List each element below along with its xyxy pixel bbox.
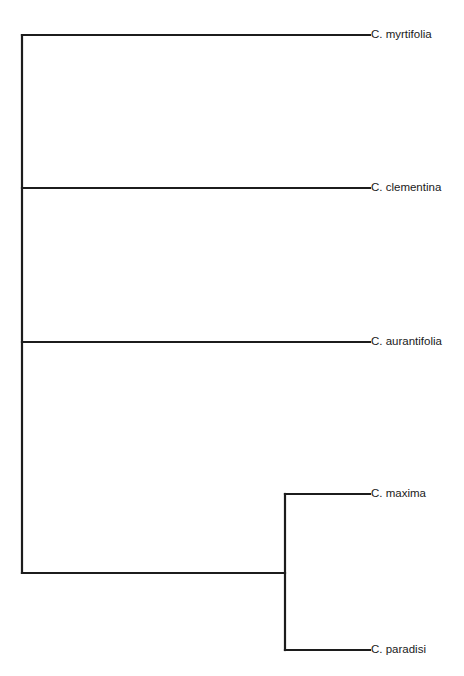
leaf-label-maxima: C. maxima: [371, 488, 426, 500]
leaf-label-paradisi: C. paradisi: [371, 644, 426, 656]
leaf-label-clementina: C. clementina: [371, 182, 441, 194]
leaf-label-aurantifolia: C. aurantifolia: [371, 336, 442, 348]
leaf-label-myrtifolia: C. myrtifolia: [371, 29, 432, 41]
